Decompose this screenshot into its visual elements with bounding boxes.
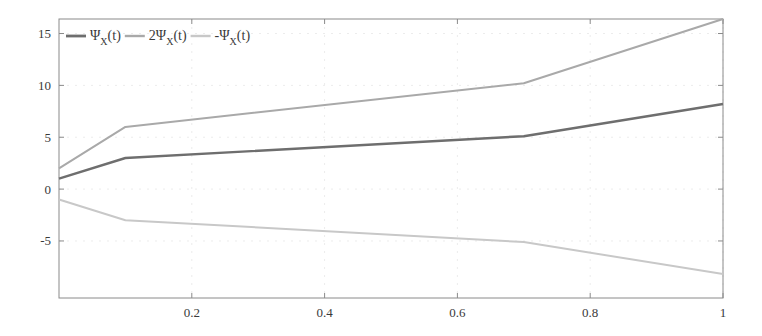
y-tick-label: 15: [38, 26, 51, 41]
x-tick-label: 0.2: [184, 305, 200, 320]
plot-area-frame: [59, 19, 723, 298]
y-tick-label: -5: [40, 233, 51, 248]
legend: ΨX(t)2ΨX(t)-ΨX(t): [66, 28, 250, 47]
x-tick-label: 0.8: [582, 305, 598, 320]
y-tick-label: 5: [45, 130, 52, 145]
x-tick-label: 1: [720, 305, 727, 320]
series-line: [59, 200, 723, 275]
series-lines: [59, 19, 723, 274]
line-chart: 0.20.40.60.81 151050-5 ΨX(t)2ΨX(t)-ΨX(t): [0, 0, 762, 336]
y-tick-label: 10: [38, 78, 51, 93]
legend-label: ΨX(t): [90, 28, 121, 47]
legend-label: -ΨX(t): [215, 28, 251, 47]
y-tick-label: 0: [45, 182, 52, 197]
x-axis: 0.20.40.60.81: [184, 19, 727, 320]
x-tick-label: 0.6: [449, 305, 466, 320]
x-tick-label: 0.4: [316, 305, 333, 320]
legend-label: 2ΨX(t): [149, 28, 187, 47]
series-line: [59, 104, 723, 179]
grid-lines: [59, 19, 723, 298]
